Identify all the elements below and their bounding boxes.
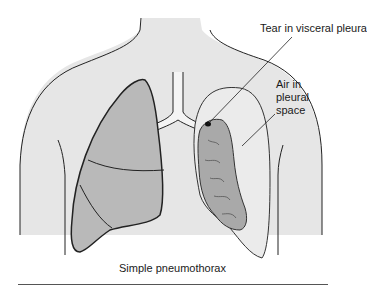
air-annotation-line-3: space bbox=[276, 104, 316, 117]
air-annotation: Air in pleural space bbox=[276, 78, 316, 117]
air-annotation-line-1: Air in bbox=[276, 78, 316, 91]
caption-divider bbox=[18, 284, 328, 285]
figure-caption: Simple pneumothorax bbox=[0, 262, 345, 275]
tear-annotation: Tear in visceral pleura bbox=[260, 22, 367, 35]
air-annotation-line-2: pleural bbox=[276, 91, 316, 104]
